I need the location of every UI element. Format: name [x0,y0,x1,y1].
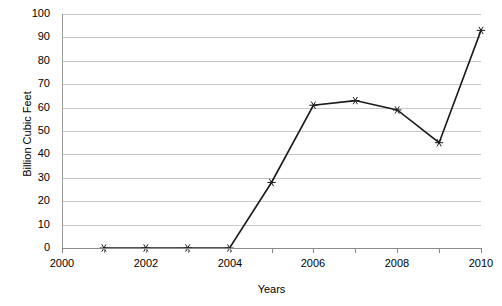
x-axis-tick [188,248,189,253]
x-axis-tick-label: 2000 [32,257,92,270]
asterisk-marker [477,27,485,34]
x-axis-tick-label: 2010 [451,257,502,270]
x-axis-tick-label: 2002 [116,257,176,270]
x-axis-tick [355,248,356,253]
x-axis-tick [313,248,314,253]
y-axis-tick-label: 50 [16,125,50,136]
y-axis-tick-label: 60 [16,102,50,113]
y-axis-tick-label: 20 [16,195,50,206]
y-axis-tick-label: 0 [16,242,50,253]
x-axis-tick [439,248,440,253]
x-axis-tick-label: 2008 [367,257,427,270]
x-axis-tick [397,248,398,253]
x-axis-tick [481,248,482,253]
asterisk-marker [267,179,275,186]
y-axis-tick-label: 10 [16,219,50,230]
y-axis-tick-label: 30 [16,172,50,183]
y-axis-tick-label: 80 [16,55,50,66]
y-axis-tick-label: 90 [16,31,50,42]
line-chart: Billion Cubic Feet 010203040506070809010… [0,0,502,306]
x-axis-tick [230,248,231,253]
asterisk-marker [351,97,359,104]
x-axis-tick-label: 2004 [200,257,260,270]
x-axis-tick-label: 2006 [283,257,343,270]
x-axis-tick [62,248,63,253]
plot-area [62,14,481,248]
y-axis-tick-label: 40 [16,148,50,159]
series-line [104,30,481,248]
asterisk-marker [309,102,317,109]
data-series [62,14,481,248]
y-axis-tick-label: 70 [16,78,50,89]
x-axis-tick [104,248,105,253]
x-axis-tick [146,248,147,253]
x-axis-tick [272,248,273,253]
y-axis-tick-label: 100 [16,8,50,19]
x-axis-title: Years [62,282,481,296]
y-axis-tick-labels: 0102030405060708090100 [18,14,56,248]
